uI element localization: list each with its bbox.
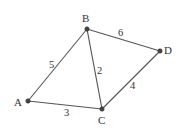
node-d	[158, 49, 162, 53]
graph-diagram: 56243ABCD	[0, 0, 187, 128]
node-b	[85, 27, 89, 31]
node-a	[26, 99, 30, 103]
node-label-a: A	[14, 96, 22, 108]
edge-weight-a-b: 5	[49, 59, 54, 70]
edge-a-b	[28, 29, 87, 101]
edges-group	[28, 29, 160, 109]
edge-b-d	[87, 29, 160, 51]
edge-weight-b-d: 6	[118, 27, 123, 38]
node-label-b: B	[82, 12, 89, 24]
node-label-d: D	[164, 44, 172, 56]
graph-svg: 56243ABCD	[0, 0, 187, 128]
edge-weight-c-d: 4	[130, 80, 136, 91]
node-label-c: C	[98, 114, 105, 126]
edge-weight-a-c: 3	[64, 107, 69, 118]
labels-group: 56243ABCD	[14, 12, 172, 126]
node-c	[100, 107, 104, 111]
edge-weight-b-c: 2	[97, 65, 102, 76]
